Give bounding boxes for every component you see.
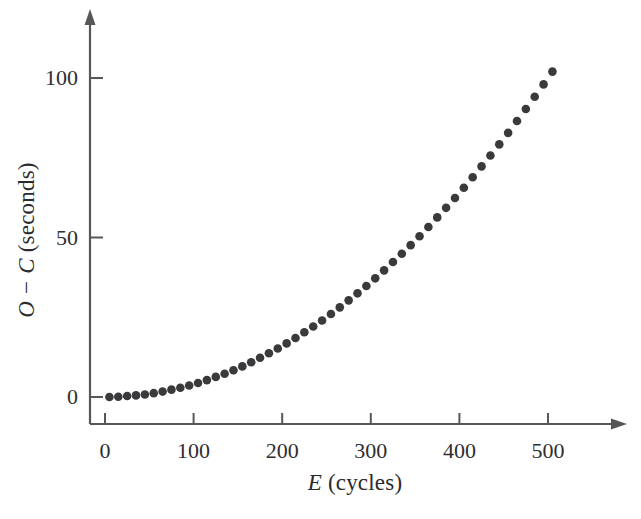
y-axis-arrowhead xyxy=(85,9,96,25)
data-point-marker xyxy=(353,289,362,298)
data-point-marker xyxy=(495,140,504,149)
x-axis-tick-label: 100 xyxy=(177,440,210,462)
data-point-marker xyxy=(300,328,309,337)
figure-container: 0100200300400500 050100 E (cycles) O − C… xyxy=(0,0,641,519)
y-axis-title-units: (seconds) xyxy=(14,162,39,252)
data-point-marker xyxy=(371,274,380,283)
data-point-marker xyxy=(398,249,407,258)
data-point-marker xyxy=(504,129,513,138)
data-point-marker xyxy=(433,213,442,222)
data-point-marker xyxy=(513,117,522,126)
data-point-marker xyxy=(238,362,247,371)
data-point-marker xyxy=(460,183,469,192)
y-axis-title-variable-o: O xyxy=(14,301,39,318)
data-point-marker xyxy=(389,258,398,267)
data-point-marker xyxy=(406,241,415,250)
y-axis-title: O − C (seconds) xyxy=(14,162,40,317)
data-point-marker xyxy=(548,67,557,76)
data-point-marker xyxy=(211,373,220,382)
data-point-marker xyxy=(203,376,212,385)
data-point-marker xyxy=(229,366,238,375)
data-point-marker xyxy=(415,232,424,241)
data-point-marker xyxy=(149,389,158,398)
data-point-marker xyxy=(105,393,114,402)
data-point-marker xyxy=(522,105,531,114)
data-point-marker xyxy=(477,162,486,171)
data-point-marker xyxy=(335,303,344,312)
data-point-marker xyxy=(141,390,150,399)
x-axis-title: E (cycles) xyxy=(308,470,403,496)
x-axis-arrowhead xyxy=(611,419,627,430)
data-point-marker xyxy=(451,194,460,203)
data-point-marker xyxy=(132,391,141,400)
y-axis-tick-label: 0 xyxy=(0,386,78,408)
data-point-marker xyxy=(442,204,451,213)
data-point-marker xyxy=(318,316,327,325)
data-point-marker xyxy=(380,266,389,275)
x-axis-tick-marks xyxy=(105,413,548,424)
x-axis-tick-label: 500 xyxy=(532,440,565,462)
data-point-marker xyxy=(344,296,353,305)
data-point-marker xyxy=(273,344,282,353)
data-point-marker xyxy=(486,151,495,160)
x-axis-title-variable: E xyxy=(308,470,322,495)
data-point-marker xyxy=(282,339,291,348)
data-point-marker xyxy=(194,379,203,388)
y-axis-tick-marks xyxy=(90,78,103,397)
data-point-marker xyxy=(158,387,167,396)
data-point-marker xyxy=(256,353,265,362)
x-axis-tick-label: 400 xyxy=(443,440,476,462)
x-axis-tick-label: 300 xyxy=(354,440,387,462)
x-axis-tick-label: 0 xyxy=(100,440,111,462)
data-point-marker xyxy=(114,392,123,401)
y-axis xyxy=(85,9,96,424)
data-point-marker xyxy=(530,93,539,102)
data-point-marker xyxy=(291,334,300,343)
y-axis-title-variable-c: C xyxy=(14,258,39,274)
data-point-marker xyxy=(327,310,336,319)
data-point-marker xyxy=(176,383,185,392)
x-axis-tick-label: 200 xyxy=(266,440,299,462)
y-axis-tick-label: 100 xyxy=(0,67,78,89)
x-axis xyxy=(90,419,627,430)
x-axis-title-units: (cycles) xyxy=(328,470,402,495)
data-point-marker xyxy=(123,392,132,401)
data-point-marker xyxy=(185,381,194,390)
data-point-marker xyxy=(167,385,176,394)
data-point-marker xyxy=(220,369,229,378)
data-point-marker xyxy=(247,358,256,367)
data-point-marker xyxy=(424,223,433,232)
y-axis-title-minus-sign: − xyxy=(14,280,39,295)
data-point-marker xyxy=(468,173,477,182)
data-point-marker xyxy=(265,349,274,358)
data-point-marker xyxy=(309,322,318,331)
data-point-marker xyxy=(539,80,548,89)
data-point-marker xyxy=(362,282,371,291)
scatter-data-markers xyxy=(105,67,557,401)
